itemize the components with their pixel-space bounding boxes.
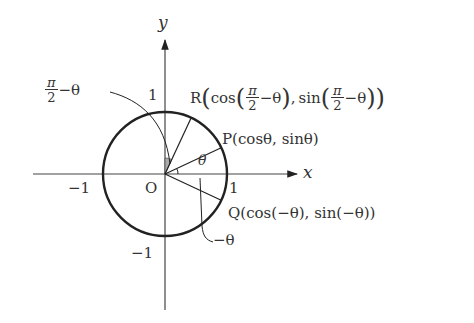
theta-arc (177, 169, 178, 175)
complement-leader (110, 92, 170, 164)
point-R-label: R(cos(π2−θ),sin(π2−θ)) (190, 84, 385, 112)
complement-angle-label: π2−θ (44, 76, 80, 104)
origin-label: O (145, 181, 157, 196)
x-axis-label: x (303, 164, 313, 181)
y-tick-neg: −1 (131, 246, 153, 261)
point-P-label: P(cosθ, sinθ) (222, 132, 319, 147)
radius-R (165, 118, 191, 174)
x-tick-neg: −1 (68, 181, 90, 196)
unit-circle-diagram (0, 0, 474, 323)
neg-theta-label: −θ (213, 233, 235, 248)
neg-theta-leader (200, 178, 213, 242)
radius-Q (165, 174, 221, 200)
y-axis-label: y (158, 14, 168, 31)
theta-label: θ (198, 153, 206, 167)
point-Q-label: Q(cos(−θ), sin(−θ)) (228, 206, 375, 221)
x-tick-pos: 1 (229, 181, 239, 196)
y-tick-pos: 1 (148, 88, 158, 103)
radius-P (165, 148, 221, 174)
